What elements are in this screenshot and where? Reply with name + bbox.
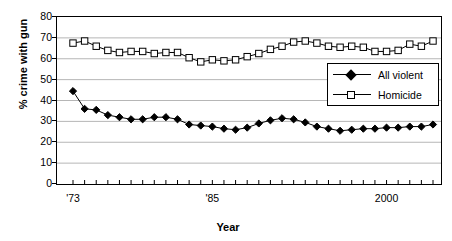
y-axis-tick <box>52 58 56 59</box>
data-point-open-square <box>163 49 169 55</box>
data-point-open-square <box>302 38 308 44</box>
data-point-filled-diamond <box>244 124 251 131</box>
y-axis-tick <box>52 16 56 17</box>
y-axis-tick <box>52 79 56 80</box>
data-point-filled-diamond <box>232 126 239 133</box>
data-point-open-square <box>221 58 227 64</box>
data-point-filled-diamond <box>313 123 320 130</box>
data-point-open-square <box>232 57 238 63</box>
data-point-open-square <box>407 41 413 47</box>
data-point-filled-diamond <box>383 124 390 131</box>
data-point-filled-diamond <box>325 125 332 132</box>
y-axis-tick-label: 0 <box>26 178 52 188</box>
data-point-filled-diamond <box>104 112 111 119</box>
data-point-open-square <box>128 48 134 54</box>
data-point-filled-diamond <box>267 117 274 124</box>
data-point-filled-diamond <box>418 123 425 130</box>
chart-figure: % crime with gun 01020304050607080 '73'8… <box>0 0 452 241</box>
data-point-filled-diamond <box>406 123 413 130</box>
data-point-open-square <box>372 48 378 54</box>
data-point-open-square <box>186 55 192 61</box>
data-point-open-square <box>151 50 157 56</box>
data-point-open-square <box>418 43 424 49</box>
y-axis-tick <box>52 183 56 184</box>
data-point-filled-diamond <box>278 115 285 122</box>
data-point-open-square <box>256 50 262 56</box>
data-point-open-square <box>279 43 285 49</box>
data-point-filled-diamond <box>429 121 436 128</box>
data-point-open-square <box>209 57 215 63</box>
data-point-filled-diamond <box>360 125 367 132</box>
data-point-filled-diamond <box>151 114 158 121</box>
data-point-filled-diamond <box>186 121 193 128</box>
data-point-open-square <box>105 47 111 53</box>
data-point-open-square <box>337 44 343 50</box>
y-axis-tick-label: 30 <box>26 115 52 125</box>
y-axis-tick-labels: 01020304050607080 <box>22 0 52 241</box>
data-point-open-square <box>267 46 273 52</box>
y-axis-tick-label: 50 <box>26 74 52 84</box>
y-axis-tick-label: 80 <box>26 11 52 21</box>
legend-label: Homicide <box>371 89 422 101</box>
y-axis-tick <box>52 100 56 101</box>
y-axis-tick-label: 70 <box>26 32 52 42</box>
data-point-open-square <box>430 38 436 44</box>
data-point-filled-diamond <box>116 114 123 121</box>
data-point-open-square <box>70 40 76 46</box>
data-point-open-square <box>198 59 204 65</box>
x-axis-title: Year <box>168 221 288 233</box>
chart-legend: All violent Homicide <box>327 63 439 106</box>
data-point-filled-diamond <box>81 105 88 112</box>
data-point-filled-diamond <box>371 125 378 132</box>
data-point-open-square <box>314 40 320 46</box>
open-square-marker-icon <box>333 89 371 101</box>
y-axis-tick-label: 10 <box>26 157 52 167</box>
data-point-open-square <box>395 47 401 53</box>
legend-item-all-violent: All violent <box>328 65 438 85</box>
x-axis-tick-label: '73 <box>53 192 93 204</box>
data-point-open-square <box>349 43 355 49</box>
data-point-open-square <box>325 43 331 49</box>
y-axis-tick-label: 40 <box>26 95 52 105</box>
data-point-filled-diamond <box>93 106 100 113</box>
data-point-filled-diamond <box>197 122 204 129</box>
legend-label: All violent <box>371 69 423 81</box>
y-axis-tick <box>52 37 56 38</box>
y-axis-tick <box>52 141 56 142</box>
data-point-open-square <box>290 39 296 45</box>
x-axis-tick-label: '85 <box>192 192 232 204</box>
data-point-filled-diamond <box>395 124 402 131</box>
data-point-filled-diamond <box>336 127 343 134</box>
data-point-filled-diamond <box>69 88 76 95</box>
data-point-filled-diamond <box>302 119 309 126</box>
data-point-open-square <box>174 49 180 55</box>
y-axis-tick-label: 20 <box>26 136 52 146</box>
data-point-filled-diamond <box>162 114 169 121</box>
data-point-open-square <box>93 43 99 49</box>
x-axis-tick-label: 2000 <box>367 192 407 204</box>
data-point-open-square <box>116 49 122 55</box>
data-point-open-square <box>360 44 366 50</box>
legend-item-homicide: Homicide <box>328 85 438 105</box>
data-point-open-square <box>383 48 389 54</box>
data-point-open-square <box>244 53 250 59</box>
data-point-filled-diamond <box>348 126 355 133</box>
data-point-filled-diamond <box>209 123 216 130</box>
data-point-filled-diamond <box>220 125 227 132</box>
y-axis-tick-label: 60 <box>26 53 52 63</box>
data-point-open-square <box>81 38 87 44</box>
y-axis-tick <box>52 120 56 121</box>
data-point-open-square <box>139 48 145 54</box>
y-axis-tick <box>52 162 56 163</box>
filled-diamond-marker-icon <box>333 69 371 81</box>
